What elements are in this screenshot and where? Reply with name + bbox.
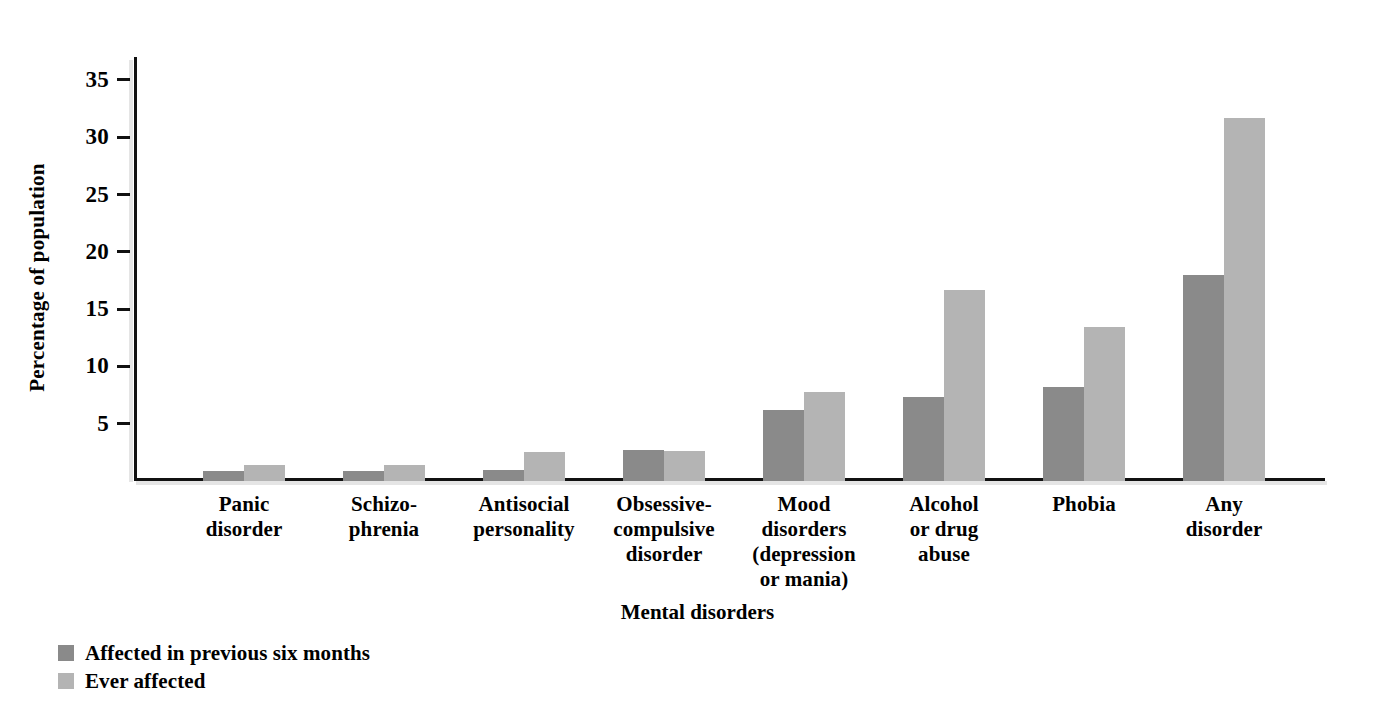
bar-group <box>1043 57 1125 481</box>
bar-chart-figure: 5101520253035 Percentage of population P… <box>0 0 1395 722</box>
chart-legend: Affected in previous six monthsEver affe… <box>58 639 370 695</box>
x-axis-label-line: Obsessive- <box>584 492 744 517</box>
bar-group <box>623 57 705 481</box>
x-axis-label-line: or mania) <box>724 567 884 592</box>
x-axis-label-line: compulsive <box>584 517 744 542</box>
bar-group <box>1183 57 1265 481</box>
bar <box>1084 327 1125 481</box>
y-axis-tick-label: 30 <box>85 124 109 150</box>
bar <box>944 290 985 481</box>
x-axis-label-line: (depression <box>724 542 884 567</box>
x-axis-label-line: personality <box>444 517 604 542</box>
bar <box>343 471 384 481</box>
x-axis-label-line: disorders <box>724 517 884 542</box>
bar <box>203 471 244 481</box>
bar <box>1224 118 1265 481</box>
bar <box>903 397 944 481</box>
x-axis-label-line: Panic <box>164 492 324 517</box>
x-axis-label-line: Schizo- <box>304 492 464 517</box>
bar-group <box>483 57 565 481</box>
y-axis-tick-label: 35 <box>85 67 109 93</box>
x-axis-label-line: Mood <box>724 492 884 517</box>
y-axis-tick: 30 <box>85 128 134 146</box>
bar-group <box>343 57 425 481</box>
x-axis-category-label: Schizo-phrenia <box>304 492 464 542</box>
x-axis-category-label: Obsessive-compulsivedisorder <box>584 492 744 567</box>
y-axis-tick-label: 25 <box>85 182 109 208</box>
bar <box>804 392 845 481</box>
x-axis-category-label: Anydisorder <box>1144 492 1304 542</box>
x-axis-label-line: disorder <box>1144 517 1304 542</box>
y-axis-tick-label: 15 <box>85 296 109 322</box>
bar-group <box>203 57 285 481</box>
x-axis-label-line: Any <box>1144 492 1304 517</box>
x-axis-category-label: Phobia <box>1004 492 1164 517</box>
y-axis-title: Percentage of population <box>25 118 50 438</box>
x-axis-category-label: Antisocialpersonality <box>444 492 604 542</box>
bar <box>623 450 664 481</box>
x-axis-label-line: Alcohol <box>864 492 1024 517</box>
x-axis-label-line: abuse <box>864 542 1024 567</box>
bar <box>1183 275 1224 481</box>
x-axis-category-label: Mooddisorders(depressionor mania) <box>724 492 884 592</box>
bar-group <box>903 57 985 481</box>
x-axis-label-line: Antisocial <box>444 492 604 517</box>
y-axis-tick-label: 5 <box>97 411 109 437</box>
plot-area <box>137 57 1325 481</box>
legend-item-label: Affected in previous six months <box>85 641 370 666</box>
bar <box>664 451 705 481</box>
y-axis-tick: 25 <box>85 186 134 204</box>
legend-item-label: Ever affected <box>85 669 205 694</box>
legend-color-swatch <box>58 645 74 661</box>
bar <box>384 465 425 481</box>
y-axis-tick: 35 <box>85 71 134 89</box>
y-axis-tick: 15 <box>85 300 134 318</box>
legend-item: Affected in previous six months <box>58 639 370 667</box>
x-axis-label-line: or drug <box>864 517 1024 542</box>
y-axis-tick-label: 10 <box>85 353 109 379</box>
y-axis-tick: 20 <box>85 243 134 261</box>
x-axis-label-line: phrenia <box>304 517 464 542</box>
x-axis-category-label: Panicdisorder <box>164 492 324 542</box>
x-axis-title: Mental disorders <box>0 600 1395 625</box>
x-axis-category-label: Alcoholor drugabuse <box>864 492 1024 567</box>
x-axis-label-line: Phobia <box>1004 492 1164 517</box>
x-axis-category-labels: PanicdisorderSchizo-phreniaAntisocialper… <box>137 492 1325 602</box>
bar-group <box>763 57 845 481</box>
x-axis-label-line: disorder <box>584 542 744 567</box>
y-axis-tick-label: 20 <box>85 239 109 265</box>
x-axis-label-line: disorder <box>164 517 324 542</box>
bar <box>763 410 804 481</box>
bar <box>244 465 285 481</box>
y-axis-tick: 10 <box>85 357 134 375</box>
bar <box>524 452 565 481</box>
bar <box>483 470 524 481</box>
legend-color-swatch <box>58 673 74 689</box>
legend-item: Ever affected <box>58 667 370 695</box>
bar <box>1043 387 1084 481</box>
